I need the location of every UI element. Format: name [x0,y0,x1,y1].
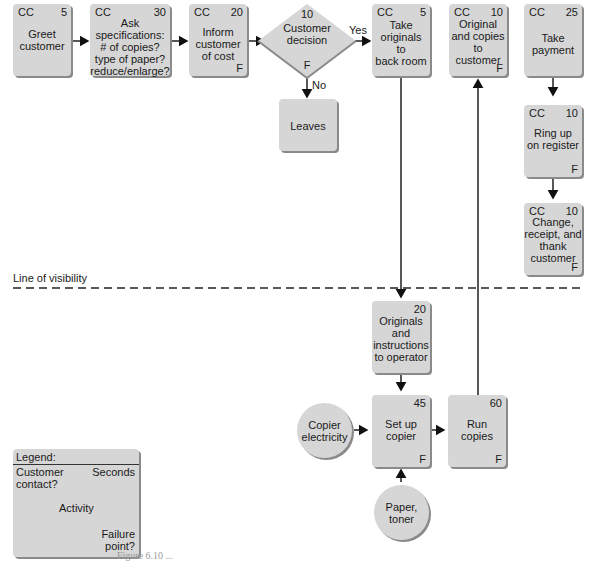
activity-originals-to-operator: 20 Originals and instructions to operato… [372,301,430,373]
seconds-value: 45 [414,397,426,409]
edge-label-yes: Yes [349,24,367,36]
customer-contact-marker: CC [454,6,470,18]
activity-label: Take originals to back room [372,19,430,67]
failure-point-marker: F [571,261,578,273]
seconds-value: 10 [566,107,578,119]
seconds-value: 5 [61,6,67,18]
failure-point-marker: F [571,163,578,175]
failure-point-marker: F [258,59,356,71]
activity-take-originals: CC 5 Take originals to back room [372,4,430,76]
activity-original-and-copies: CC 10 Original and copies to customer F [449,4,507,76]
failure-point-marker: F [495,453,502,465]
input-paper-toner: Paper, toner [374,485,429,540]
activity-label: Set up copier [372,418,430,442]
activity-ring-up: CC 10 Ring up on register F [524,105,582,177]
customer-contact-marker: CC [194,6,210,18]
decision-label: Customer decision [258,22,356,46]
seconds-value: 10 [491,6,503,18]
activity-inform-customer: CC 20 Inform customer of cost F [189,4,247,76]
legend-activity: Activity [59,502,94,514]
legend-title: Legend: [16,451,56,463]
seconds-value: 10 [258,8,356,20]
activity-label: Run copies [448,418,506,442]
activity-label: Greet customer [13,28,71,52]
activity-change-receipt: CC 10 Change, receipt, and thank custome… [524,203,582,275]
customer-contact-marker: CC [529,107,545,119]
activity-label: Inform customer of cost [189,26,247,62]
failure-point-marker: F [496,62,503,74]
activity-label: Leaves [279,120,337,132]
line-of-visibility-label: Line of visibility [13,272,87,284]
legend: Legend: Customer contact? Seconds Activi… [13,449,139,557]
activity-take-payment: CC 25 Take payment [524,4,582,76]
activity-set-up-copier: 45 Set up copier F [372,395,430,467]
legend-seconds: Seconds [92,466,135,478]
legend-divider [13,464,139,465]
activity-label: Take payment [524,32,582,56]
customer-contact-marker: CC [377,6,393,18]
activity-greet-customer: CC 5 Greet customer [13,4,71,76]
activity-leaves: Leaves [279,99,337,151]
failure-point-marker: F [419,453,426,465]
legend-failure-point: Failure point? [101,528,135,552]
failure-point-marker: F [236,62,243,74]
activity-label: Original and copies to customer [449,18,507,66]
activity-run-copies: 60 Run copies F [448,395,506,467]
activity-label: Change, receipt, and thank customer [524,216,582,264]
customer-contact-marker: CC [529,6,545,18]
figure-caption: Figure 6.10 ... [117,550,173,561]
input-copier-electricity: Copier electricity [297,403,352,458]
decision-customer: 10 Customer decision F [258,4,356,78]
seconds-value: 20 [414,303,426,315]
legend-customer-contact: Customer contact? [16,466,64,490]
activity-label: Ask specifications: # of copies? type of… [90,17,170,77]
activity-ask-specifications: CC 30 Ask specifications: # of copies? t… [90,4,170,76]
seconds-value: 25 [566,6,578,18]
seconds-value: 5 [420,6,426,18]
seconds-value: 20 [231,6,243,18]
edge-label-no: No [312,79,326,91]
activity-label: Originals and instructions to operator [372,315,430,363]
activity-label: Ring up on register [524,127,582,151]
customer-contact-marker: CC [18,6,34,18]
seconds-value: 60 [490,397,502,409]
